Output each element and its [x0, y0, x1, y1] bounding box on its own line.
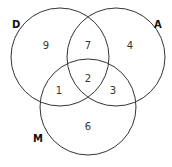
region-value: 2	[85, 73, 91, 84]
set-label-a: A	[154, 19, 162, 30]
region-value: 1	[56, 85, 62, 96]
region-value: 6	[85, 121, 91, 132]
region-value: 3	[110, 85, 116, 96]
region-value: 4	[127, 40, 133, 51]
set-label-d: D	[12, 19, 20, 30]
region-value: 9	[43, 40, 49, 51]
venn-diagram: DAM 9742136	[0, 0, 172, 167]
region-value: 7	[85, 40, 91, 51]
set-label-m: M	[33, 133, 43, 144]
